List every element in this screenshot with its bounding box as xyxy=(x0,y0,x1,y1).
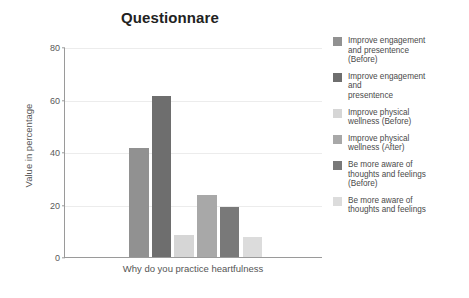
bar xyxy=(197,195,217,257)
y-axis-title: Value in percentage xyxy=(23,76,34,216)
legend-item-label: Be more aware of thoughts and feelings xyxy=(348,196,426,215)
bar xyxy=(174,235,194,257)
legend-item-label: Improve physical wellness (After) xyxy=(348,134,409,153)
legend-item[interactable]: Improve engagement and presentence xyxy=(333,72,465,101)
y-tick-mark xyxy=(62,257,65,258)
legend-item[interactable]: Improve physical wellness (After) xyxy=(333,134,465,153)
legend-item-label: Improve engagement and presentence (Befo… xyxy=(348,36,425,65)
bar xyxy=(220,207,240,257)
y-tick-label: 20 xyxy=(50,201,60,211)
x-axis-label: Why do you practice heartfulness xyxy=(64,263,322,274)
legend-item[interactable]: Improve engagement and presentence (Befo… xyxy=(333,36,465,65)
chart-title: Questionnare xyxy=(0,9,340,26)
legend-swatch-icon xyxy=(333,37,342,46)
legend-item-label: Improve physical wellness (Before) xyxy=(348,108,411,127)
legend-item-label: Be more aware of thoughts and feelings (… xyxy=(348,160,426,189)
y-tick-label: 40 xyxy=(50,148,60,158)
chart-legend: Improve engagement and presentence (Befo… xyxy=(333,36,465,222)
legend-swatch-icon xyxy=(333,73,342,82)
legend-swatch-icon xyxy=(333,161,342,170)
legend-swatch-icon xyxy=(333,135,342,144)
legend-item[interactable]: Be more aware of thoughts and feelings (… xyxy=(333,160,465,189)
legend-swatch-icon xyxy=(333,109,342,118)
bar xyxy=(129,148,149,257)
y-tick-label: 0 xyxy=(55,253,60,263)
bar xyxy=(243,237,263,257)
plot-area: 020406080 xyxy=(64,48,322,258)
legend-item-label: Improve engagement and presentence xyxy=(348,72,425,101)
bar xyxy=(152,96,172,257)
legend-item[interactable]: Be more aware of thoughts and feelings xyxy=(333,196,465,215)
y-tick-label: 80 xyxy=(50,43,60,53)
chart-container: Questionnare Value in percentage 0204060… xyxy=(0,0,469,298)
legend-item[interactable]: Improve physical wellness (Before) xyxy=(333,108,465,127)
bar-group xyxy=(65,48,322,257)
y-tick-label: 60 xyxy=(50,96,60,106)
legend-swatch-icon xyxy=(333,197,342,206)
